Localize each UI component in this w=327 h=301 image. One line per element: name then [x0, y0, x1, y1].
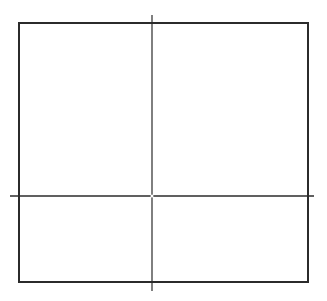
quadrant-diagram	[0, 0, 327, 301]
intersection-point	[151, 195, 154, 198]
outer-rectangle	[19, 23, 308, 282]
